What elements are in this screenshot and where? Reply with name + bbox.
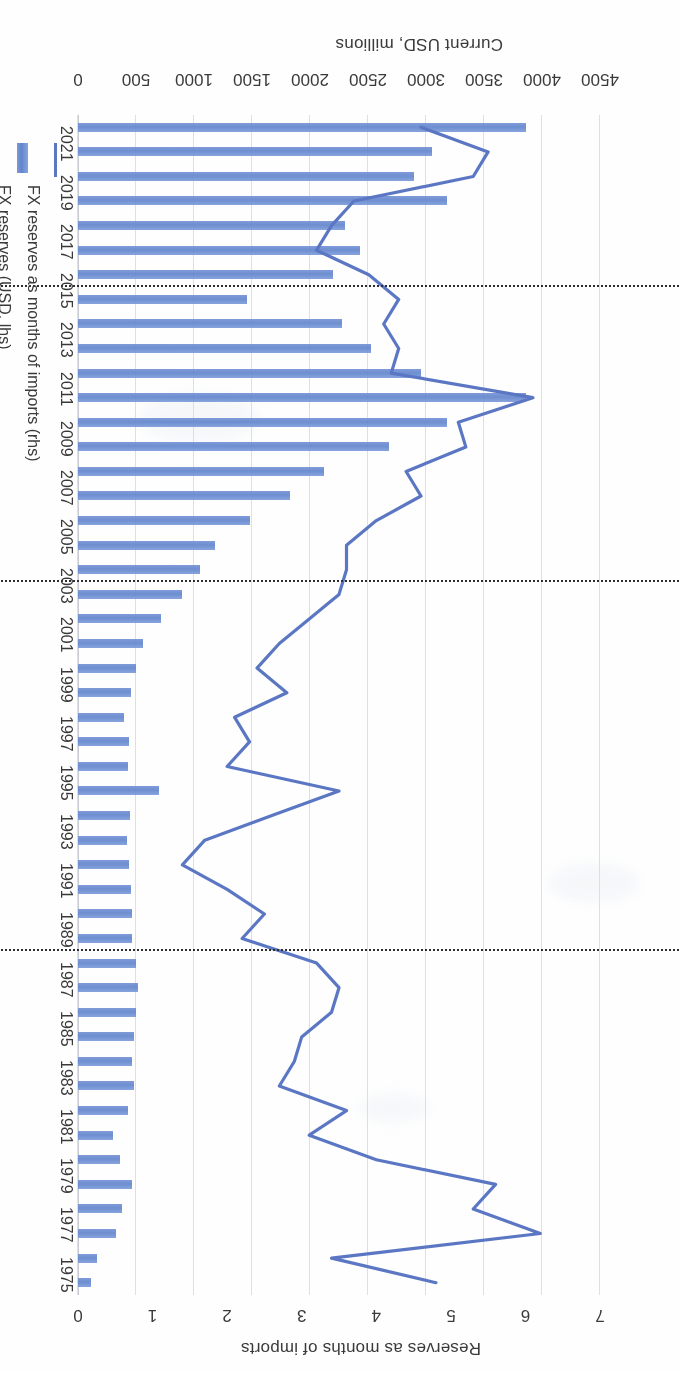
category-label: 1983 [57,1060,75,1096]
axis-tick-label: 5 [446,1305,455,1325]
category-label: 2021 [57,126,75,162]
axis-tick-label: 2 [222,1305,231,1325]
category-label: 2005 [57,519,75,555]
category-label: 1989 [57,913,75,949]
axis-tick-label: 3 [297,1305,306,1325]
axis-tick-label: 4 [372,1305,381,1325]
category-label: 2011 [57,372,75,406]
rotated-figure-wrapper: Reserves as months of imports 01234567 C… [0,0,679,1373]
category-label: 1981 [57,1109,75,1145]
category-label: 2001 [57,618,75,654]
plot-area [78,115,600,1295]
category-label: 1993 [57,814,75,850]
axis-tick-label: 4000 [523,69,561,89]
category-label: 1975 [57,1257,75,1293]
legend-bar-swatch [17,143,28,173]
axis-tick-label: 500 [122,69,150,89]
axis-tick-label: 2500 [349,69,387,89]
axis-tick-label: 7 [595,1305,604,1325]
axis-tick-label: 1000 [175,69,213,89]
category-label: 1999 [57,667,75,703]
secondary-axis-title: Reserves as months of imports [241,1338,481,1358]
axis-tick-label: 0 [73,1305,82,1325]
category-label: 1985 [57,1011,75,1047]
axis-tick-label: 6 [521,1305,530,1325]
line-series [78,115,600,1295]
axis-tick-label: 2000 [291,69,329,89]
category-label: 2003 [57,568,75,604]
category-label: 1997 [57,716,75,752]
category-label: 1991 [57,863,75,899]
category-label: 2007 [57,470,75,506]
category-label: 1995 [57,765,75,801]
legend-label: FX reserves as months of imports (rhs) [24,185,42,462]
category-label: 1979 [57,1158,75,1194]
axis-tick-label: 3500 [465,69,503,89]
legend-line-swatch [54,143,57,177]
category-label: 2019 [57,175,75,211]
axis-tick-label: 1 [148,1305,157,1325]
marker-line [0,949,679,951]
marker-line [0,285,679,287]
primary-axis-title: Current USD, millions [335,34,503,54]
legend-label: FX reserves (USD, lhs) [0,185,13,349]
primary-axis-ticks: 050010001500200025003000350040004500 [0,63,679,89]
marker-line [0,580,679,582]
category-label: 1987 [57,962,75,998]
axis-tick-label: 0 [73,69,82,89]
category-label: 2013 [57,323,75,359]
axis-tick-label: 4500 [581,69,619,89]
chart-figure: Reserves as months of imports 01234567 C… [0,0,679,1373]
category-label: 2015 [57,273,75,309]
secondary-axis-ticks: 01234567 [0,1299,679,1325]
category-label: 2009 [57,421,75,457]
category-label: 2017 [57,224,75,260]
category-label: 1977 [57,1208,75,1244]
axis-tick-label: 3000 [407,69,445,89]
axis-tick-label: 1500 [233,69,271,89]
